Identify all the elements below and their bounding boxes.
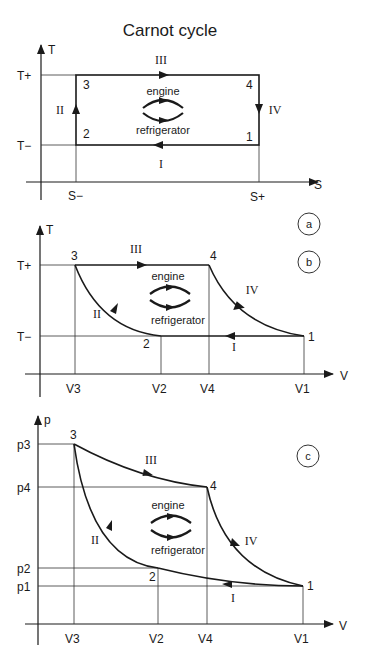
arrow-icon [230, 538, 240, 546]
panel-badge-a: a [298, 213, 320, 235]
process-i: I [159, 157, 163, 171]
point-1: 1 [307, 579, 314, 593]
process-iii: III [145, 453, 157, 467]
point-3: 3 [83, 78, 90, 92]
y-tick-p4: p4 [17, 481, 31, 495]
process-ii: II [91, 533, 99, 547]
point-2: 2 [83, 127, 90, 141]
arrow-icon [72, 104, 80, 114]
panel-c-pv-diagram: p V p3 p4 p2 p1 V3 V2 V4 V1 1 2 3 [17, 413, 347, 646]
process-ii: II [93, 307, 101, 321]
engine-label: engine [151, 270, 184, 282]
arrow-icon [153, 141, 163, 149]
point-3: 3 [71, 249, 78, 263]
x-tick-s-plus: S+ [250, 190, 265, 204]
panel-a-ts-diagram: T S T+ T− S− S+ 2 3 4 1 I II III IV engi… [17, 43, 322, 204]
y-axis-label: T [48, 43, 56, 57]
process-i: I [231, 591, 235, 605]
point-2: 2 [149, 570, 156, 584]
process-iii: III [130, 242, 142, 256]
x-tick-s-minus: S− [68, 189, 83, 203]
x-tick-v1: V1 [295, 382, 310, 396]
svg-text:b: b [306, 256, 312, 268]
process-iv: IV [269, 103, 282, 117]
y-tick-t-plus: T+ [17, 69, 31, 83]
arrow-icon [225, 332, 235, 340]
x-tick-v3: V3 [66, 382, 81, 396]
carnot-diagram: Carnot cycle T S T+ T− S− S+ 2 3 4 1 I I… [0, 0, 369, 662]
arrow-icon [222, 581, 232, 588]
point-1: 1 [246, 130, 253, 144]
x-tick-v4: V4 [198, 632, 213, 646]
diagram-title: Carnot cycle [123, 21, 217, 40]
svg-text:c: c [305, 450, 311, 462]
engine-label: engine [146, 85, 179, 97]
cycle-direction-icon: engine refrigerator [150, 270, 205, 326]
arrow-icon [159, 71, 169, 79]
panel-b-tv-diagram: T V T+ T− V3 V2 V4 V1 1 2 3 4 I II [17, 223, 348, 397]
x-tick-v2: V2 [149, 632, 164, 646]
panel-badge-b: b [298, 251, 320, 273]
arrow-icon [233, 301, 245, 312]
x-axis-label: S [314, 178, 322, 192]
y-tick-t-plus: T+ [17, 259, 31, 273]
process-i: I [232, 340, 236, 354]
refrigerator-label: refrigerator [151, 314, 205, 326]
arrow-icon [110, 303, 118, 314]
y-tick-t-minus: T− [17, 139, 31, 153]
panel-badge-c: c [297, 445, 319, 467]
process-iv: IV [245, 534, 258, 548]
point-4: 4 [210, 479, 217, 493]
cycle-path [74, 444, 303, 586]
x-tick-v2: V2 [152, 382, 167, 396]
point-3: 3 [70, 428, 77, 442]
x-axis-label: V [340, 369, 348, 383]
y-axis-label: p [44, 413, 51, 427]
y-tick-p2: p2 [17, 562, 31, 576]
process-iii: III [155, 53, 167, 67]
cycle-direction-icon: engine refrigerator [136, 85, 190, 136]
y-tick-t-minus: T− [17, 330, 31, 344]
x-axis-label: V [339, 619, 347, 633]
arrow-icon [255, 104, 263, 114]
point-2: 2 [143, 337, 150, 351]
cycle-direction-icon: engine refrigerator [151, 499, 205, 556]
refrigerator-label: refrigerator [151, 544, 205, 556]
y-tick-p3: p3 [17, 438, 31, 452]
point-4: 4 [210, 249, 217, 263]
x-tick-v1: V1 [294, 632, 309, 646]
process-ii: II [56, 103, 64, 117]
x-tick-v4: V4 [200, 382, 215, 396]
y-tick-p1: p1 [17, 580, 31, 594]
engine-label: engine [151, 499, 184, 511]
process-iv: IV [246, 283, 259, 297]
point-4: 4 [246, 78, 253, 92]
arrow-icon [137, 261, 147, 269]
svg-text:a: a [306, 218, 313, 230]
point-1: 1 [308, 330, 315, 344]
y-axis-label: T [46, 223, 54, 237]
x-tick-v3: V3 [65, 632, 80, 646]
arrow-icon [106, 520, 112, 531]
refrigerator-label: refrigerator [136, 124, 190, 136]
